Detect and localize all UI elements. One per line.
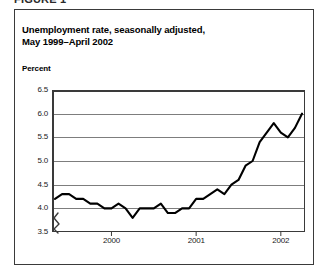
- unemployment-rate-line-series: [52, 90, 305, 232]
- figure-container: FIGURE 1 Unemployment rate, seasonally a…: [0, 0, 323, 271]
- chart-title-line-1: Unemployment rate, seasonally adjusted,: [22, 24, 205, 36]
- y-tick-label: 5.5: [37, 132, 48, 141]
- y-tick-label: 6.0: [37, 109, 48, 118]
- x-tick-label: 2001: [188, 236, 205, 245]
- y-axis-tick-labels: 6.56.05.55.04.54.03.5: [18, 90, 48, 232]
- chart-title: Unemployment rate, seasonally adjusted, …: [22, 24, 205, 48]
- x-tick-label: 2002: [272, 236, 289, 245]
- x-axis-tick-labels: 200020012002: [52, 236, 305, 250]
- y-tick-label: 5.0: [37, 156, 48, 165]
- y-tick-label: 6.5: [37, 85, 48, 94]
- figure-label: FIGURE 1: [14, 0, 66, 5]
- plot-area: [52, 90, 305, 232]
- y-tick-label: 4.5: [37, 180, 48, 189]
- y-axis-break-icon: [45, 212, 61, 234]
- chart-title-line-2: May 1999–April 2002: [22, 36, 205, 48]
- y-axis-title: Percent: [22, 64, 51, 73]
- y-tick-label: 4.0: [37, 203, 48, 212]
- x-tick-label: 2000: [103, 236, 120, 245]
